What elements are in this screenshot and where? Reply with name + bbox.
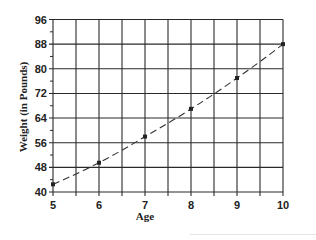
data-point-marker [97, 161, 101, 165]
data-point-marker [189, 107, 193, 111]
x-tick-label: 8 [188, 199, 194, 211]
data-point-marker [51, 182, 55, 186]
y-axis-label: Weight (in Pounds) [17, 61, 30, 152]
y-tick-label: 56 [35, 137, 47, 149]
y-tick-label: 96 [35, 14, 47, 26]
data-point-marker [281, 42, 285, 46]
data-point-marker [235, 76, 239, 80]
x-axis-ticks: 5678910 [50, 199, 289, 211]
x-axis-label: Age [136, 210, 154, 222]
x-tick-label: 10 [277, 199, 289, 211]
y-tick-label: 48 [35, 161, 47, 173]
x-tick-label: 9 [234, 199, 240, 211]
line-chart: 4048566472808896 5678910 Age Weight (in … [0, 0, 316, 240]
y-axis-ticks: 4048566472808896 [35, 14, 48, 199]
y-tick-label: 72 [35, 87, 47, 99]
y-tick-label: 64 [35, 112, 48, 124]
x-tick-label: 6 [96, 199, 102, 211]
grid-lines [49, 20, 283, 197]
x-tick-label: 5 [50, 199, 56, 211]
y-tick-label: 40 [35, 186, 47, 198]
y-tick-label: 80 [35, 63, 47, 75]
bottom-divider [190, 234, 316, 235]
y-tick-label: 88 [35, 38, 47, 50]
data-point-marker [143, 135, 147, 139]
